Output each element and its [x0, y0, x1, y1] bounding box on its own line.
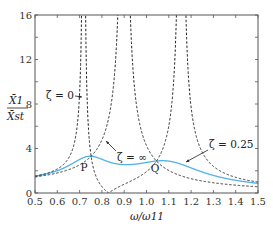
frequency-response-chart: 0.50.60.70.80.91.01.11.21.31.41.50481216… [0, 0, 273, 232]
label-zeta-0: ζ = 0 [46, 89, 74, 101]
y-tick-label: 16 [19, 10, 32, 21]
y-tick-label: 0 [26, 188, 32, 199]
x-tick-label: 0.8 [94, 196, 110, 207]
x-axis-label: ω/ω11 [130, 210, 164, 222]
x-tick-label: 0.9 [116, 196, 132, 207]
label-point-P: P [80, 161, 87, 173]
plot-axes: 0.50.60.70.80.91.01.11.21.31.41.50481216 [19, 10, 266, 208]
x-tick-label: 1.4 [228, 196, 244, 207]
y-axis-label-numerator: X̄1 [8, 94, 23, 106]
x-tick-label: 1.0 [139, 196, 155, 207]
x-tick-label: 1.3 [205, 196, 221, 207]
label-point-Q: Q [151, 162, 160, 174]
x-tick-label: 1.5 [250, 196, 266, 207]
y-tick-label: 12 [19, 54, 32, 65]
y-tick-label: 4 [26, 143, 32, 154]
x-tick-label: 0.6 [49, 196, 65, 207]
label-zeta-infinity: ζ = ∞ [117, 151, 147, 163]
x-tick-label: 1.2 [183, 196, 199, 207]
x-tick-label: 0.7 [72, 196, 88, 207]
y-axis-label-denominator: X̄st [6, 110, 25, 122]
x-tick-label: 1.1 [161, 196, 177, 207]
label-zeta-0.25: ζ = 0.25 [209, 138, 254, 150]
